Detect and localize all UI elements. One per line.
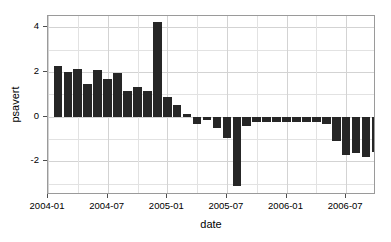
bar bbox=[252, 117, 261, 123]
x-axis-tick-label: 2004-01 bbox=[17, 200, 77, 211]
gridline-horizontal-minor bbox=[48, 184, 374, 185]
bar bbox=[302, 117, 311, 122]
bar bbox=[133, 87, 142, 117]
y-axis-tick bbox=[43, 26, 47, 27]
gridline-vertical-major bbox=[346, 16, 347, 193]
bar bbox=[113, 73, 122, 117]
bar bbox=[103, 79, 112, 117]
bar bbox=[332, 117, 341, 142]
y-axis-tick bbox=[43, 116, 47, 117]
gridline-vertical-minor bbox=[197, 16, 198, 193]
bar bbox=[322, 117, 331, 124]
bar bbox=[242, 117, 251, 126]
bar bbox=[203, 117, 212, 120]
y-axis-tick-label: 4 bbox=[12, 21, 39, 31]
bar bbox=[372, 117, 375, 153]
gridline-vertical-minor bbox=[257, 16, 258, 193]
gridline-horizontal-minor bbox=[48, 139, 374, 140]
bar bbox=[233, 117, 242, 186]
bar bbox=[272, 117, 281, 122]
bar bbox=[362, 117, 371, 157]
y-axis-tick-label: 0 bbox=[12, 111, 39, 121]
y-axis-tick bbox=[43, 160, 47, 161]
gridline-vertical-major bbox=[48, 16, 49, 193]
bar bbox=[163, 97, 172, 116]
x-axis-tick bbox=[47, 194, 48, 198]
bar bbox=[73, 69, 82, 117]
bar bbox=[83, 84, 92, 117]
x-axis-tick bbox=[226, 194, 227, 198]
x-axis-tick-label: 2005-07 bbox=[196, 200, 256, 211]
bar bbox=[153, 22, 162, 117]
x-axis-tick bbox=[286, 194, 287, 198]
bar bbox=[173, 105, 182, 117]
y-axis-tick bbox=[43, 71, 47, 72]
bar bbox=[93, 70, 102, 117]
bar bbox=[223, 117, 232, 139]
bar bbox=[193, 117, 202, 125]
bar bbox=[312, 117, 321, 122]
bar bbox=[352, 117, 361, 153]
gridline-horizontal-major bbox=[48, 161, 374, 162]
bar bbox=[292, 117, 301, 122]
y-axis-title: psavert bbox=[8, 15, 22, 194]
gridline-vertical-minor bbox=[316, 16, 317, 193]
x-axis-tick-label: 2006-01 bbox=[256, 200, 316, 211]
bar bbox=[183, 114, 192, 117]
bar bbox=[213, 117, 222, 128]
y-axis-tick-label: -2 bbox=[12, 155, 39, 165]
chart-root: psavert date 2004-012004-072005-012005-0… bbox=[0, 0, 391, 242]
bar bbox=[262, 117, 271, 122]
x-axis-tick bbox=[107, 194, 108, 198]
plot-panel bbox=[47, 15, 375, 194]
gridline-horizontal-minor bbox=[48, 50, 374, 51]
gridline-vertical-major bbox=[227, 16, 228, 193]
gridline-vertical-major bbox=[287, 16, 288, 193]
bar bbox=[143, 91, 152, 117]
x-axis-tick bbox=[166, 194, 167, 198]
bar bbox=[123, 91, 132, 117]
x-axis-tick-label: 2004-07 bbox=[77, 200, 137, 211]
bar bbox=[54, 66, 63, 116]
bar bbox=[342, 117, 351, 155]
gridline-horizontal-major bbox=[48, 27, 374, 28]
x-axis-tick bbox=[345, 194, 346, 198]
bar bbox=[64, 72, 73, 116]
x-axis-title: date bbox=[47, 218, 375, 231]
x-axis-tick-label: 2005-01 bbox=[136, 200, 196, 211]
x-axis-tick-label: 2006-07 bbox=[315, 200, 375, 211]
bar bbox=[282, 117, 291, 122]
y-axis-tick-label: 2 bbox=[12, 66, 39, 76]
